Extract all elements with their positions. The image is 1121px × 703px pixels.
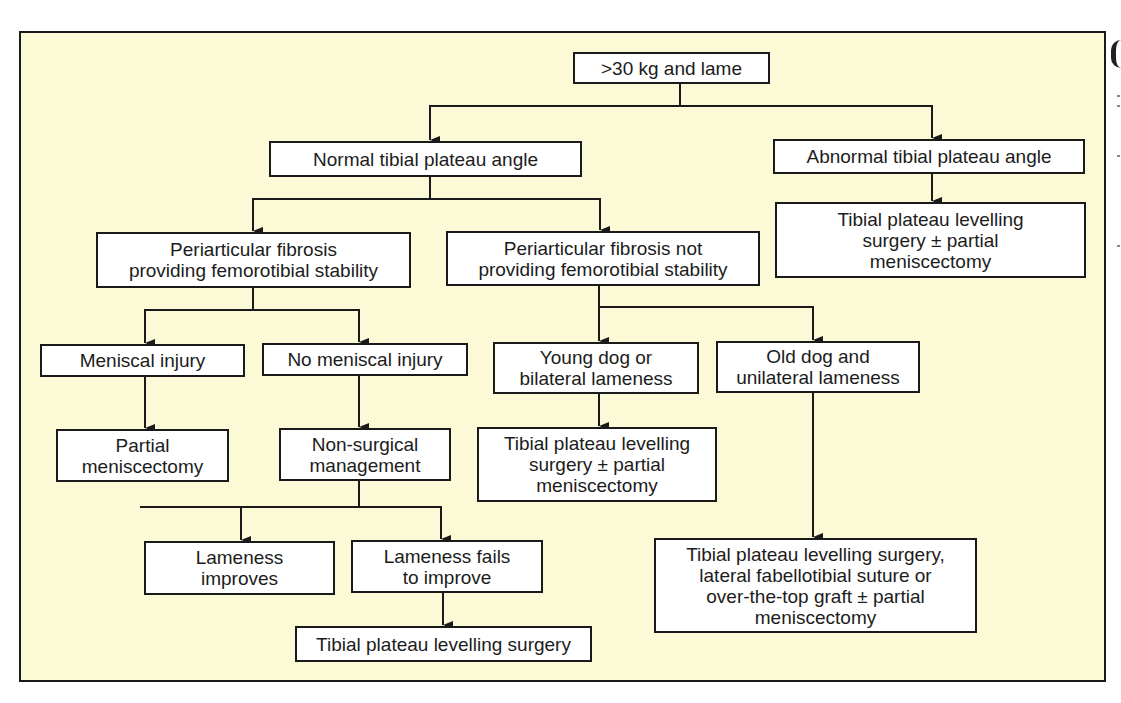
- node-young-dog-bilateral: Young dog or bilateral lameness: [493, 342, 699, 394]
- node-fibrosis-stable: Periarticular fibrosis providing femorot…: [96, 232, 411, 288]
- node-old-dog-unilateral: Old dog and unilateral lameness: [716, 341, 920, 393]
- node-tibial-plateau-levelling-surgery: Tibial plateau levelling surgery: [295, 626, 592, 662]
- node-meniscal-injury: Meniscal injury: [40, 344, 245, 377]
- node-lameness-fails-to-improve: Lameness fails to improve: [351, 540, 543, 593]
- node-root: >30 kg and lame: [573, 52, 770, 84]
- cropped-text-fragment: [1117, 245, 1120, 247]
- node-abnormal-tibial-plateau-angle: Abnormal tibial plateau angle: [773, 139, 1085, 174]
- cropped-glyph-fragment: [1111, 40, 1121, 68]
- node-normal-tibial-plateau-angle: Normal tibial plateau angle: [269, 141, 582, 177]
- node-partial-meniscectomy: Partial meniscectomy: [56, 429, 229, 482]
- node-fibrosis-unstable: Periarticular fibrosis not providing fem…: [446, 231, 760, 286]
- cropped-text-fragment: [1117, 155, 1120, 157]
- node-young-dog-treatment: Tibial plateau levelling surgery ± parti…: [477, 427, 717, 502]
- node-old-dog-treatment: Tibial plateau levelling surgery, latera…: [654, 538, 977, 633]
- node-abnormal-treatment: Tibial plateau levelling surgery ± parti…: [775, 202, 1086, 278]
- node-no-meniscal-injury: No meniscal injury: [262, 343, 468, 376]
- cropped-text-fragment: [1117, 95, 1120, 97]
- cropped-text-fragment: [1117, 105, 1120, 107]
- node-lameness-improves: Lameness improves: [144, 541, 335, 595]
- node-non-surgical-management: Non-surgical management: [279, 428, 451, 481]
